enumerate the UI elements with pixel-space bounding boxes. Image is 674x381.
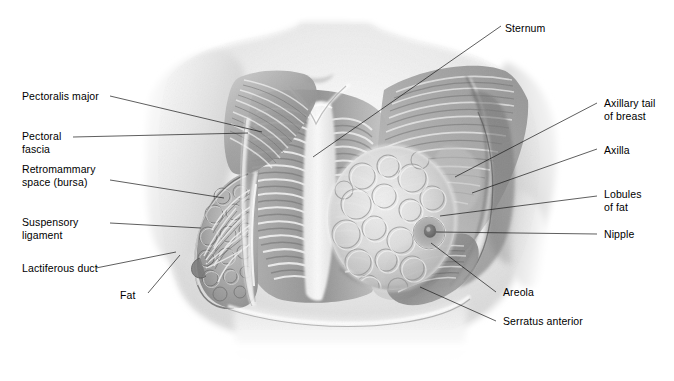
label-pectoral-fascia-line2: fascia: [22, 143, 50, 156]
label-retromammary-space-line2: space (bursa): [22, 176, 88, 189]
label-axillary-tail-line1: Axillary tail: [604, 97, 655, 110]
label-pectoral-fascia-line1: Pectoral: [22, 130, 61, 143]
label-layer: Pectoralis major Pectoral fascia Retroma…: [0, 0, 674, 381]
label-serratus-anterior: Serratus anterior: [503, 315, 583, 328]
label-lactiferous-duct: Lactiferous duct: [22, 262, 98, 275]
label-pectoralis-major: Pectoralis major: [22, 90, 99, 103]
label-axilla: Axilla: [604, 144, 630, 157]
label-fat: Fat: [120, 289, 135, 302]
label-retromammary-space-line1: Retromammary: [22, 163, 96, 176]
label-nipple: Nipple: [604, 228, 634, 241]
label-suspensory-ligament-line1: Suspensory: [22, 216, 78, 229]
label-suspensory-ligament-line2: ligament: [22, 229, 63, 242]
label-lobules-of-fat-line2: of fat: [604, 201, 628, 214]
label-axillary-tail-line2: of breast: [604, 110, 646, 123]
label-sternum: Sternum: [505, 22, 545, 35]
breast-anatomy-figure: Pectoralis major Pectoral fascia Retroma…: [0, 0, 674, 381]
label-lobules-of-fat-line1: Lobules: [604, 188, 641, 201]
label-areola: Areola: [503, 286, 534, 299]
